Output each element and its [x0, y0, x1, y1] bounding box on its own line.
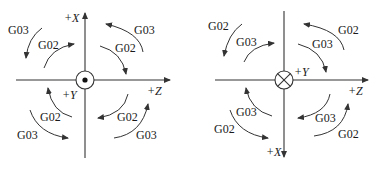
label-bl-inner: G02 — [40, 110, 61, 124]
label-tr-inner: G03 — [312, 37, 333, 51]
label-tl-inner: G02 — [38, 38, 59, 52]
label-tl-inner: G03 — [236, 35, 257, 49]
left-diagram: +X +Z +Y G03 G02 G03 G02 G02 G03 G02 G03 — [8, 11, 170, 158]
label-tl-outer: G03 — [8, 23, 29, 37]
label-tr-inner: G02 — [115, 41, 136, 55]
dot-icon — [82, 77, 87, 82]
label-bl-outer: G03 — [17, 128, 38, 142]
label-br-inner: G02 — [117, 110, 138, 124]
y-axis-label: +Y — [62, 88, 78, 102]
label-br-inner: G03 — [315, 111, 336, 125]
x-axis-label: +X — [266, 145, 282, 159]
label-br-outer: G03 — [136, 128, 157, 142]
label-bl-inner: G03 — [236, 105, 257, 119]
arc-direction-diagrams: +X +Z +Y G03 G02 G03 G02 G02 G03 G02 G03… — [0, 0, 384, 170]
right-diagram: +X +Z +Y G02 G03 G02 G03 G03 G02 G03 G02 — [208, 11, 368, 159]
label-br-outer: G02 — [338, 127, 359, 141]
z-axis-label: +Z — [147, 84, 162, 98]
label-tl-outer: G02 — [208, 19, 229, 33]
label-bl-outer: G02 — [214, 122, 235, 136]
y-axis-label: +Y — [294, 65, 310, 79]
x-axis-label: +X — [64, 11, 80, 25]
label-tr-outer: G03 — [134, 23, 155, 37]
z-axis-label: +Z — [348, 84, 363, 98]
label-tr-outer: G02 — [338, 23, 359, 37]
